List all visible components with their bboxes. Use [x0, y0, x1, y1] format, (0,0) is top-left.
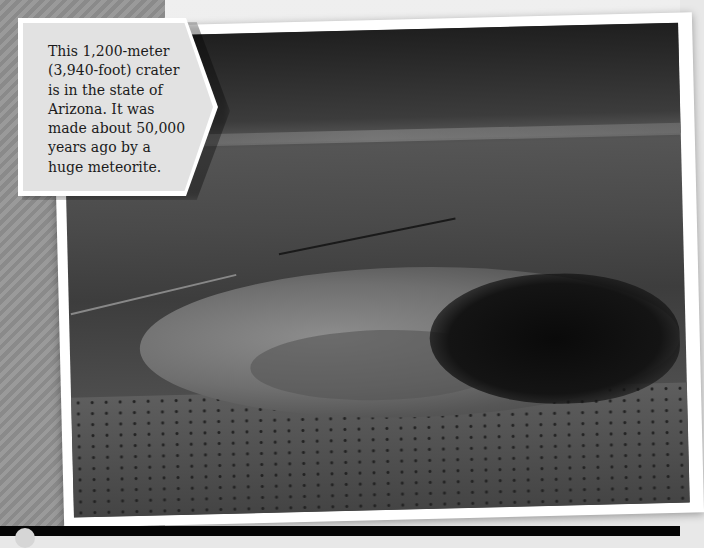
bottom-bar [0, 526, 680, 536]
callout-text: This 1,200-meter (3,940-foot) crater is … [48, 42, 218, 177]
circle-icon[interactable] [15, 528, 35, 548]
photo-road [279, 218, 456, 256]
